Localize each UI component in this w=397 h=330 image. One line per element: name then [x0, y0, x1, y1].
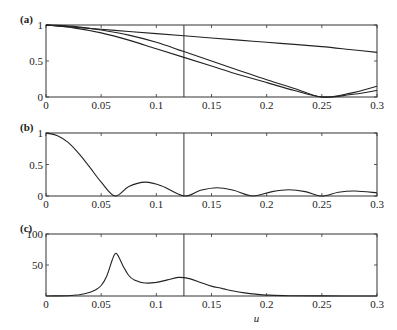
x-tick-label: 0.05	[92, 99, 112, 111]
y-tick-label: 0	[38, 91, 44, 103]
x-tick-label: 0.2	[260, 99, 274, 111]
y-tick-label: 1	[38, 19, 44, 31]
plot-frame	[46, 234, 377, 296]
x-tick-label: 0.15	[202, 99, 222, 111]
x-tick-label: 0.15	[202, 198, 222, 210]
x-tick-label: 0.2	[260, 198, 274, 210]
series-line-middle	[46, 25, 377, 97]
panel-label: (b)	[20, 121, 34, 134]
x-tick-label: 0	[43, 99, 49, 111]
x-axis-label: u	[254, 312, 260, 324]
y-tick-label: 50	[32, 259, 44, 271]
y-tick-label: 1	[38, 127, 44, 139]
x-tick-label: 0.1	[149, 198, 163, 210]
x-tick-label: 0.3	[370, 298, 384, 310]
x-tick-label: 0	[43, 198, 49, 210]
panel-label: (a)	[20, 13, 33, 26]
x-tick-label: 0.05	[92, 298, 112, 310]
panel-a: 00.050.10.150.20.250.300.51(a)	[20, 13, 384, 111]
series-line-response	[46, 133, 377, 196]
y-tick-label: 0.5	[29, 55, 43, 67]
plot-frame	[46, 133, 377, 196]
x-tick-label: 0	[43, 298, 49, 310]
panel-c: 00.050.10.150.20.250.350100(c)u	[20, 222, 384, 324]
series-line-amplitude	[46, 253, 377, 296]
x-tick-label: 0.3	[370, 198, 384, 210]
x-tick-label: 0.2	[260, 298, 274, 310]
figure: 00.050.10.150.20.250.300.51(a)00.050.10.…	[0, 0, 397, 330]
panel-b: 00.050.10.150.20.250.300.51(b)	[20, 121, 384, 210]
y-tick-label: 0.5	[29, 159, 43, 171]
x-tick-label: 0.25	[312, 198, 332, 210]
y-tick-label: 0	[38, 190, 44, 202]
panel-label: (c)	[20, 222, 33, 235]
x-tick-label: 0.25	[312, 298, 332, 310]
x-tick-label: 0.25	[312, 99, 332, 111]
x-tick-label: 0.3	[370, 99, 384, 111]
x-tick-label: 0.15	[202, 298, 222, 310]
x-tick-label: 0.05	[92, 198, 112, 210]
x-tick-label: 0.1	[149, 99, 163, 111]
x-tick-label: 0.1	[149, 298, 163, 310]
